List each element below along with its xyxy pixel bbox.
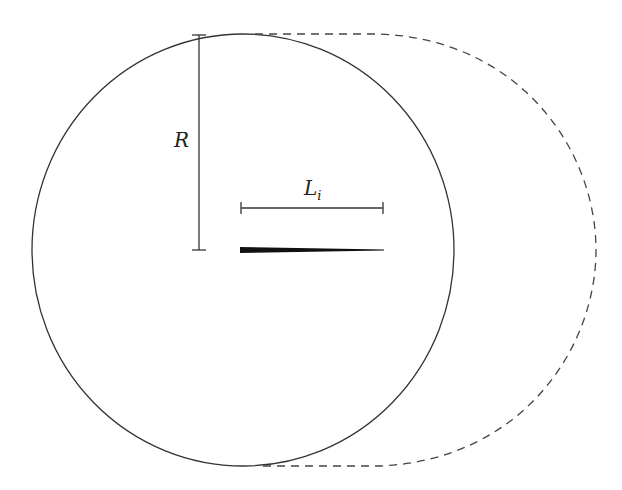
radius-dimension: [192, 35, 206, 250]
radius-label: R: [174, 128, 189, 152]
crack-circle-diagram: [0, 0, 622, 490]
length-label: Li: [304, 176, 321, 203]
length-label-subscript: i: [317, 188, 321, 203]
length-dimension: [241, 202, 383, 214]
length-label-main: L: [304, 176, 317, 200]
radius-label-text: R: [174, 128, 189, 152]
crack-wedge: [240, 247, 384, 253]
